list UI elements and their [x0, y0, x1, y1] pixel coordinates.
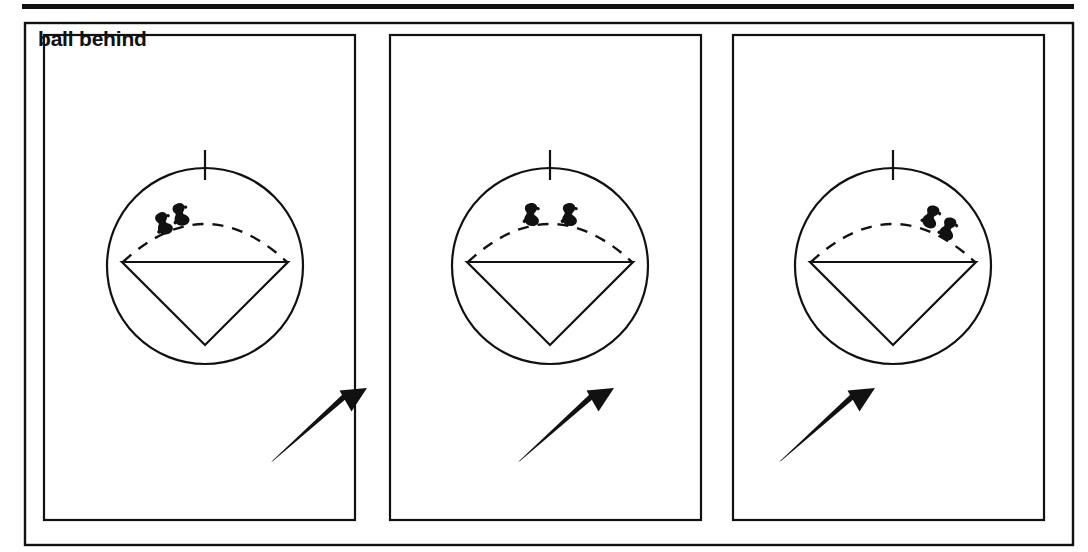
panel-3-border — [733, 35, 1044, 520]
outer-frame — [25, 23, 1073, 545]
panel-1-arrow-icon — [271, 388, 367, 462]
panel-1 — [44, 35, 367, 520]
panel-2-triangle — [467, 262, 633, 345]
panel-2-circle — [452, 168, 648, 364]
panel-2-border — [390, 35, 701, 520]
panel-2-arrow-icon — [518, 388, 614, 462]
figure-label-ball-behind: ball behind — [38, 28, 147, 49]
diagram-canvas — [0, 0, 1088, 552]
panel-3 — [733, 35, 1044, 520]
diagram-stage: ball behind — [0, 0, 1088, 552]
panel-3-arrow-icon — [779, 388, 875, 462]
panel-2-dashed-arc — [468, 224, 632, 262]
panel-1-dashed-arc — [123, 224, 287, 262]
panel-1-circle — [107, 168, 303, 364]
panel-2 — [390, 35, 701, 520]
panel-1-marker-group — [152, 201, 192, 237]
panel-3-circle — [795, 168, 991, 364]
panel-2-marker-group — [523, 203, 578, 226]
panel-1-border — [44, 35, 355, 520]
panel-3-triangle — [810, 262, 976, 345]
top-rule — [22, 4, 1074, 9]
panel-1-triangle — [122, 262, 288, 345]
